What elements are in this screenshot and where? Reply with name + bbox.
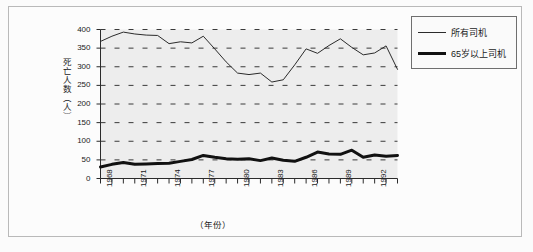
legend-item-all-drivers: 所有司机 bbox=[418, 25, 487, 39]
x-axis-tick-label: 1983 bbox=[276, 169, 285, 187]
y-axis-tick-label: 350 bbox=[65, 43, 91, 52]
y-axis-tick-label: 0 bbox=[65, 174, 91, 183]
x-axis-tick-label: 1977 bbox=[207, 169, 216, 187]
legend-line-thin-icon bbox=[418, 32, 446, 33]
chart-legend: 所有司机 65岁以上司机 bbox=[411, 16, 517, 69]
x-axis-tick-label: 1989 bbox=[344, 169, 353, 187]
x-axis-tick-label: 1974 bbox=[173, 169, 182, 187]
y-axis-tick-label: 50 bbox=[65, 155, 91, 164]
x-axis-tick-label: 1986 bbox=[310, 169, 319, 187]
x-axis-tick-label: 1971 bbox=[139, 169, 148, 187]
x-axis-tick-label: 1992 bbox=[379, 169, 388, 187]
x-axis-tick-label: 1968 bbox=[105, 169, 114, 187]
legend-item-over-65-drivers: 65岁以上司机 bbox=[418, 46, 506, 60]
legend-label-over-65-drivers: 65岁以上司机 bbox=[451, 47, 506, 60]
chart-figure: 400350300250200150100500 196819711974197… bbox=[0, 0, 533, 252]
legend-label-all-drivers: 所有司机 bbox=[451, 26, 487, 39]
y-axis-tick-label: 100 bbox=[65, 136, 91, 145]
y-axis-tick-label: 400 bbox=[65, 25, 91, 34]
legend-line-thick-icon bbox=[418, 52, 446, 55]
y-axis-title: 死亡人数（人） bbox=[54, 58, 70, 121]
x-axis-tick-label: 1980 bbox=[242, 169, 251, 187]
x-axis-title: （年份） bbox=[195, 218, 231, 230]
